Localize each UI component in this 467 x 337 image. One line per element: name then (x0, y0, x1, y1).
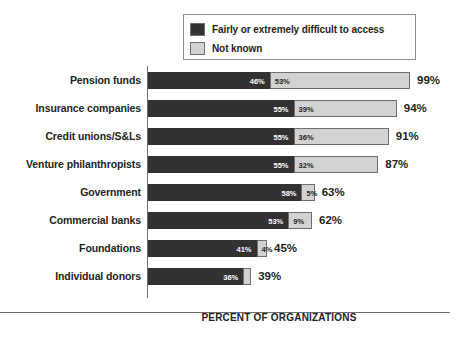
category-label-credit-unions-s-ls: Credit unions/S&Ls (0, 128, 141, 145)
bar-segment-difficult-to-access: 58% (148, 184, 301, 201)
bar-segment-difficult-to-access: 41% (148, 240, 257, 257)
bar-segment-difficult-to-access: 55% (148, 156, 294, 173)
segment-value-label: 36% (299, 129, 314, 146)
bar-row: Commercial banks53%9%62% (0, 212, 467, 229)
bar-row: Government58%5%63% (0, 184, 467, 201)
segment-value-label: 55% (274, 129, 289, 146)
bar-segment-not-known (243, 268, 251, 285)
segment-value-label: 55% (274, 101, 289, 118)
stacked-bar: 36% (148, 268, 251, 285)
stacked-bar: 41%4% (148, 240, 267, 257)
segment-value-label: 53% (268, 213, 283, 230)
bar-segment-not-known: 36% (294, 128, 389, 145)
bar-segment-difficult-to-access: 55% (148, 100, 294, 117)
segment-value-label: 36% (223, 269, 238, 286)
category-label-individual-donors: Individual donors (0, 268, 141, 285)
bar-total-label: 99% (417, 72, 440, 89)
bar-row: Pension funds46%53%99% (0, 72, 467, 89)
segment-value-label: 39% (299, 101, 314, 118)
bar-row: Venture philanthropists55%32%87% (0, 156, 467, 173)
category-label-government: Government (0, 184, 141, 201)
bar-segment-not-known: 53% (270, 72, 410, 89)
segment-value-label: 5% (306, 185, 317, 202)
category-label-commercial-banks: Commercial banks (0, 212, 141, 229)
legend-item-difficult-to-access: Fairly or extremely difficult to access (190, 20, 409, 38)
category-label-venture-philanthropists: Venture philanthropists (0, 156, 141, 173)
bar-row: Individual donors36%39% (0, 268, 467, 285)
stacked-bar: 58%5% (148, 184, 315, 201)
segment-value-label: 4% (262, 241, 273, 258)
bar-segment-not-known: 4% (257, 240, 268, 257)
stacked-bar: 55%36% (148, 128, 389, 145)
segment-value-label: 58% (281, 185, 296, 202)
legend-swatch-dark (190, 23, 205, 36)
legend-item-not-known: Not known (190, 39, 409, 57)
category-label-insurance-companies: Insurance companies (0, 100, 141, 117)
bar-total-label: 62% (319, 212, 342, 229)
bar-row: Foundations41%4%45% (0, 240, 467, 257)
category-label-pension-funds: Pension funds (0, 72, 141, 89)
bar-segment-not-known: 9% (288, 212, 312, 229)
segment-value-label: 53% (275, 73, 290, 90)
bar-total-label: 94% (404, 100, 427, 117)
bar-total-label: 63% (322, 184, 345, 201)
segment-value-label: 32% (299, 157, 314, 174)
x-axis-title: PERCENT OF ORGANIZATIONS (148, 312, 410, 323)
stacked-bar: 46%53% (148, 72, 410, 89)
plot-area: Pension funds46%53%99%Insurance companie… (0, 66, 467, 298)
bar-total-label: 39% (258, 268, 281, 285)
stacked-bar: 53%9% (148, 212, 312, 229)
bar-segment-not-known: 32% (294, 156, 379, 173)
segment-value-label: 46% (250, 73, 265, 90)
chart-legend: Fairly or extremely difficult to access … (183, 14, 416, 60)
legend-label-not-known: Not known (212, 43, 262, 54)
bar-segment-difficult-to-access: 53% (148, 212, 288, 229)
bar-row: Insurance companies55%39%94% (0, 100, 467, 117)
stacked-bar: 55%39% (148, 100, 397, 117)
bar-total-label: 91% (396, 128, 419, 145)
bar-row: Credit unions/S&Ls55%36%91% (0, 128, 467, 145)
legend-swatch-light (190, 42, 205, 55)
stacked-bar: 55%32% (148, 156, 378, 173)
segment-value-label: 9% (293, 213, 304, 230)
segment-value-label: 41% (236, 241, 251, 258)
bar-total-label: 87% (385, 156, 408, 173)
bar-segment-difficult-to-access: 46% (148, 72, 270, 89)
bar-segment-not-known: 5% (301, 184, 314, 201)
bar-segment-difficult-to-access: 36% (148, 268, 243, 285)
bar-total-label: 45% (274, 240, 297, 257)
bar-segment-difficult-to-access: 55% (148, 128, 294, 145)
stacked-bar-chart: Fairly or extremely difficult to access … (0, 0, 467, 337)
bar-segment-not-known: 39% (294, 100, 397, 117)
segment-value-label: 55% (274, 157, 289, 174)
legend-label-difficult-to-access: Fairly or extremely difficult to access (212, 24, 384, 35)
category-label-foundations: Foundations (0, 240, 141, 257)
